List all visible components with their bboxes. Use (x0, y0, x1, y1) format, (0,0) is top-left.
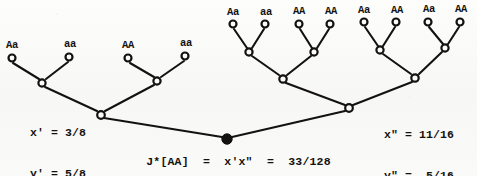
edge-node-to-root (104, 118, 222, 137)
edge-leaf-to-parent (252, 29, 264, 48)
edge-node-to-subroot (286, 83, 345, 105)
edge-parent-to-node (287, 56, 311, 75)
edge-leaf-to-parent (365, 27, 378, 46)
leaf-label: Aa (423, 4, 435, 15)
kinship-formula: J*[AA] = x'x" = 33/128 (146, 155, 331, 168)
left-x-frequency: x' = 3/8 (30, 126, 86, 140)
edge-parent-to-node (105, 85, 154, 111)
leaf-node (425, 19, 432, 26)
leaf-node (457, 19, 464, 26)
leaf-node (182, 53, 189, 60)
leaf-node (393, 19, 400, 26)
left-allele-frequencies: x' = 3/8 y' = 5/8 (30, 99, 86, 176)
leaf-label: AA (325, 6, 337, 17)
internal-node (38, 79, 45, 86)
figure-canvas: Aa aa AA aa Aa aa AA AA Aa AA Aa AA x' =… (0, 0, 477, 176)
leaf-label: aa (64, 39, 76, 50)
right-allele-frequencies: x" = 11/16 y" = 5/16 (384, 101, 454, 176)
edge-leaf-to-parent (161, 61, 184, 77)
right-x-frequency: x" = 11/16 (384, 128, 454, 142)
leaf-label: AA (391, 5, 403, 16)
edge-parent-to-node (419, 52, 442, 74)
internal-node (97, 111, 105, 119)
edge-leaf-to-parent (448, 27, 459, 44)
internal-node (441, 44, 448, 51)
edge-leaf-to-parent (300, 29, 312, 48)
leaf-label: Aa (6, 40, 18, 51)
edge-leaf-to-parent (130, 63, 154, 77)
edge-leaf-to-parent (46, 62, 68, 79)
leaf-node (66, 54, 73, 61)
edge-subroot-to-root (232, 111, 345, 137)
root-node-filled (222, 134, 232, 144)
leaf-node (296, 21, 303, 28)
edge-leaf-to-parent (317, 29, 329, 48)
internal-node (411, 74, 418, 81)
edge-leaf-to-parent (234, 29, 247, 48)
right-y-frequency: y" = 5/16 (384, 169, 454, 177)
internal-node (279, 75, 286, 82)
edge-leaf-to-parent (383, 27, 395, 46)
edge-leaf-to-parent (429, 27, 443, 44)
edge-parent-to-node (252, 56, 279, 75)
leaf-label: AA (293, 6, 305, 17)
leaf-node (361, 19, 368, 26)
internal-node (310, 48, 317, 55)
leaf-label: Aa (227, 7, 239, 18)
internal-node (153, 77, 160, 84)
leaf-label: Aa (358, 5, 370, 16)
leaf-node (230, 21, 237, 28)
leaf-node (262, 21, 269, 28)
leaf-label: aa (260, 7, 272, 18)
leaf-label: AA (455, 4, 467, 15)
leaf-node (327, 21, 334, 28)
internal-node (376, 46, 383, 53)
leaf-label: AA (122, 40, 134, 51)
internal-node (345, 104, 353, 112)
internal-node (245, 48, 252, 55)
leaf-label: aa (180, 38, 192, 49)
left-y-frequency: y' = 5/8 (30, 167, 86, 177)
leaf-node (9, 55, 16, 62)
edge-leaf-to-parent (13, 63, 39, 79)
edge-parent-to-node (383, 54, 411, 74)
leaf-node (125, 55, 132, 62)
